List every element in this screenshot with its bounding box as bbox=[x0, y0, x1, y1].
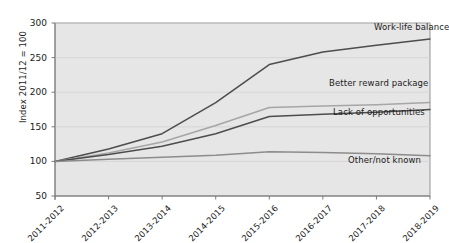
series-label: Better reward package bbox=[329, 78, 428, 88]
series-label: Other/not known bbox=[348, 155, 421, 165]
series-label: Work-life balance bbox=[374, 22, 449, 32]
series-label: Lack of opportunities bbox=[333, 107, 425, 117]
